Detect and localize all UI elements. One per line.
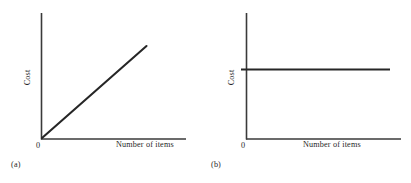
panel-caption-b: (b) bbox=[211, 160, 221, 169]
x-axis-label-b: Number of items bbox=[303, 140, 361, 149]
origin-label-b: 0 bbox=[241, 141, 245, 150]
plot-area-b bbox=[205, 0, 411, 183]
chart-panel-a: Cost Number of items 0 (a) bbox=[0, 0, 206, 183]
origin-label-a: 0 bbox=[36, 141, 40, 150]
figure-container: Cost Number of items 0 (a) Cost Number o… bbox=[0, 0, 411, 183]
chart-panel-b: Cost Number of items 0 (b) bbox=[205, 0, 411, 183]
panel-caption-a: (a) bbox=[11, 160, 21, 169]
data-line-variable-cost bbox=[42, 46, 147, 138]
y-axis-label-b: Cost bbox=[227, 58, 236, 98]
y-axis-label-a: Cost bbox=[23, 58, 32, 98]
x-axis-label-a: Number of items bbox=[116, 140, 174, 149]
